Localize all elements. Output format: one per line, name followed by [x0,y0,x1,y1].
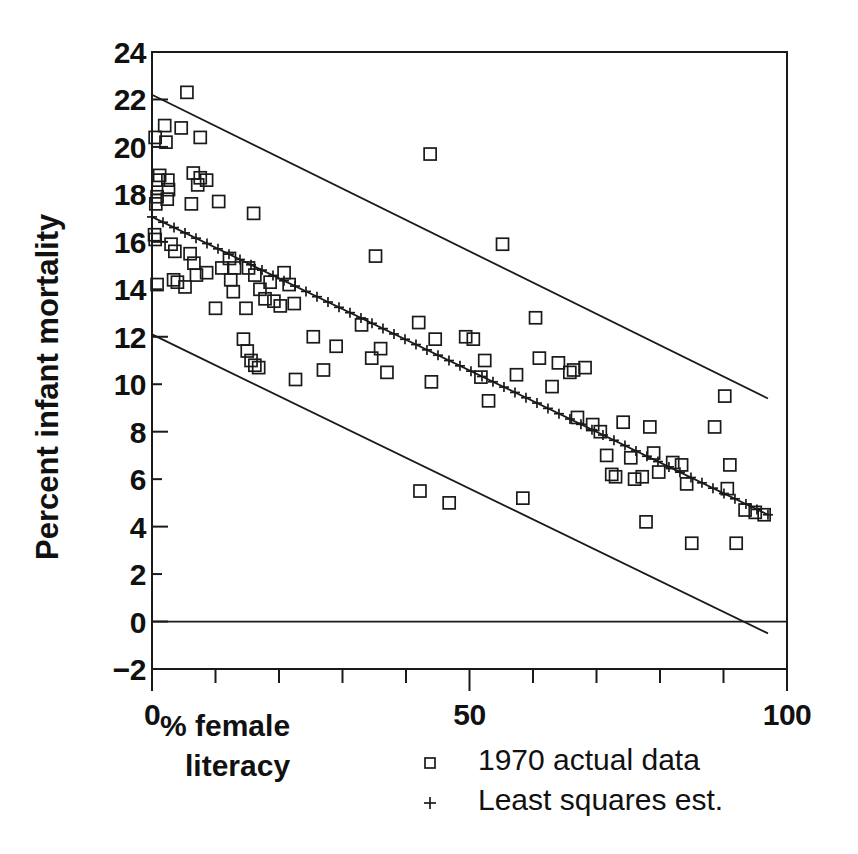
data-point [307,331,319,343]
data-point [546,381,558,393]
data-point [330,340,342,352]
data-point [719,390,731,402]
data-point [413,317,425,329]
data-point [210,302,222,314]
data-point [425,376,437,388]
data-point [149,229,161,241]
data-point [290,373,302,385]
data-point [165,238,177,250]
data-point [653,466,665,478]
data-point [149,233,161,245]
data-point [640,516,652,528]
y-tick-label: 22 [114,83,146,116]
y-tick-label: 6 [130,463,146,496]
legend-label: 1970 actual data [478,743,700,776]
data-point [175,122,187,134]
data-point [248,207,260,219]
data-point [644,421,656,433]
data-points-1970-actual [149,86,771,549]
data-point [443,497,455,509]
data-point [227,286,239,298]
data-point [625,452,637,464]
x-axis-title-line-2: literacy [185,749,290,782]
y-tick-label: 12 [114,321,146,354]
y-tick-label: 14 [114,273,147,306]
data-point [225,274,237,286]
y-axis-title-group: Percent infant mortality [30,213,65,560]
data-point [730,537,742,549]
data-point [579,362,591,374]
data-point [530,312,542,324]
y-tick-label: −2 [113,653,146,686]
y-tick-label: 16 [114,226,146,259]
data-point [479,355,491,367]
data-point [533,352,545,364]
data-point [159,120,171,132]
data-point [187,167,199,179]
y-tick-label: 8 [130,416,146,449]
data-point [552,357,564,369]
y-tick-label: 18 [114,178,146,211]
data-point [414,485,426,497]
data-point [497,238,509,250]
y-axis-title: Percent infant mortality [30,213,65,560]
data-point [194,131,206,143]
x-tick-label: 0 [144,698,160,731]
data-point [179,281,191,293]
y-tick-label: 10 [114,368,146,401]
y-tick-label: 4 [130,511,147,544]
y-tick-label: 24 [114,36,147,69]
data-point [237,333,249,345]
scatter-plot-canvas: Percent infant mortality −20246810121416… [0,0,858,854]
y-axis-tick-labels: −2024681012141618202224 [113,36,147,686]
data-point [617,416,629,428]
data-point [709,421,721,433]
data-point [429,333,441,345]
x-axis-title-line-1: % female [160,709,290,742]
lower-confidence-band [152,334,768,633]
chart-figure: Percent infant mortality −20246810121416… [0,0,858,854]
legend-square-icon [425,758,435,768]
data-point [517,492,529,504]
x-tick-label: 50 [453,698,485,731]
data-point [483,395,495,407]
data-point [601,449,613,461]
y-tick-label: 20 [114,131,146,164]
y-tick-label: 2 [130,558,146,591]
data-point [686,537,698,549]
data-point [181,86,193,98]
data-point [213,196,225,208]
data-point [240,302,252,314]
data-point [317,364,329,376]
least-squares-fit-line [147,212,773,520]
x-axis-title-group: % female literacy [160,709,290,782]
x-tick-label: 100 [763,698,812,731]
chart-legend: 1970 actual dataLeast squares est. [424,743,723,816]
data-point [288,298,300,310]
data-point [424,148,436,160]
upper-confidence-band [152,95,768,399]
data-point [510,369,522,381]
data-point [169,245,181,257]
legend-label: Least squares est. [478,783,723,816]
y-tick-label: 0 [130,606,146,639]
data-point [724,459,736,471]
data-point [185,198,197,210]
data-point [370,250,382,262]
data-point [381,366,393,378]
